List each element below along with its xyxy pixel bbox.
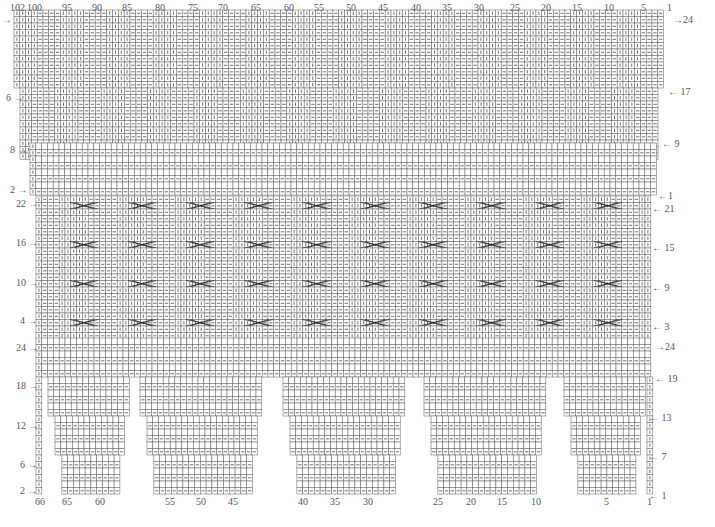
- top-label: 20: [541, 3, 551, 13]
- top-label: 85: [122, 3, 132, 13]
- left-label: →: [2, 15, 12, 25]
- bottom-label: 10: [531, 497, 541, 507]
- left-label: 2 →: [20, 486, 38, 496]
- bottom-label: 5: [604, 497, 609, 507]
- top-label: 100: [27, 3, 42, 13]
- bottom-label: 35: [330, 497, 340, 507]
- top-label: 40: [411, 3, 421, 13]
- right-label: →24: [655, 342, 675, 352]
- top-label: 30: [474, 3, 484, 13]
- bottom-label: 30: [363, 497, 373, 507]
- right-label: ←1: [658, 191, 673, 201]
- top-label: 102: [10, 3, 25, 13]
- bottom-label: 60: [95, 497, 105, 507]
- top-label: 10: [604, 3, 614, 13]
- bottom-label: 25: [433, 497, 443, 507]
- bottom-label: 65: [62, 497, 72, 507]
- bottom-label: 20: [466, 497, 476, 507]
- left-label: 6 →: [6, 93, 24, 103]
- right-label: ← 17: [668, 87, 691, 97]
- right-label: ← 3: [652, 322, 670, 332]
- right-label: ← 7: [649, 452, 667, 462]
- top-label: 60: [284, 3, 294, 13]
- left-label: 16 →: [16, 238, 39, 248]
- right-label: ← 13: [649, 413, 672, 423]
- top-label: 5: [641, 3, 646, 13]
- top-label: 70: [218, 3, 228, 13]
- bottom-label: 15: [497, 497, 507, 507]
- top-label: 75: [188, 3, 198, 13]
- top-label: 65: [251, 3, 261, 13]
- right-label: →24: [673, 15, 693, 25]
- top-label: 15: [572, 3, 582, 13]
- right-label: ← 21: [652, 204, 675, 214]
- top-label: 45: [378, 3, 388, 13]
- top-label: 25: [510, 3, 520, 13]
- right-label: ← 1: [649, 491, 667, 501]
- right-label: ← 9: [652, 283, 670, 293]
- left-label: 18 →: [16, 381, 39, 391]
- left-label: 12 →: [16, 421, 39, 431]
- left-label: 8 →: [10, 145, 28, 155]
- right-label: ← 9: [662, 139, 680, 149]
- top-label: 95: [62, 3, 72, 13]
- top-label: 90: [92, 3, 102, 13]
- bottom-label: 45: [228, 497, 238, 507]
- left-label: 10 →: [16, 278, 39, 288]
- right-label: ← 19: [655, 374, 678, 384]
- left-label: 4 →: [20, 316, 38, 326]
- top-label: 80: [155, 3, 165, 13]
- stitch-grid: [0, 0, 715, 527]
- top-label: 55: [314, 3, 324, 13]
- top-label: 1: [667, 3, 672, 13]
- bottom-label: 55: [165, 497, 175, 507]
- left-label: 24 →: [16, 343, 39, 353]
- left-label: 22 →: [16, 199, 39, 209]
- right-label: ← 15: [652, 243, 675, 253]
- top-label: 35: [442, 3, 452, 13]
- bottom-label: 40: [298, 497, 308, 507]
- left-label: 6 →: [20, 460, 38, 470]
- left-label: 2 →: [10, 185, 28, 195]
- bottom-label: 66: [35, 497, 45, 507]
- knitting-chart: 1021009590858075706560555045403530252015…: [0, 0, 715, 527]
- top-label: 50: [346, 3, 356, 13]
- bottom-label: 50: [196, 497, 206, 507]
